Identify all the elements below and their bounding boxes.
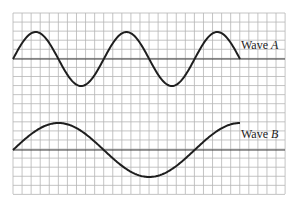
wave-b-label: Wave B [241,127,279,141]
wave-a-label: Wave A [241,38,279,52]
wave-diagram: Wave AWave B [0,0,302,206]
wave-curves [13,32,240,177]
wave-labels: Wave AWave B [241,38,279,141]
